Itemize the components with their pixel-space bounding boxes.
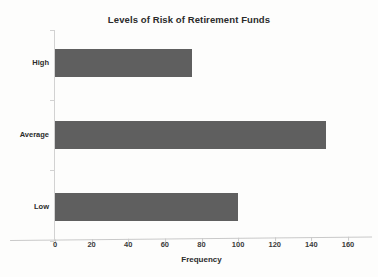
y-tick-label-high: High [32,58,49,67]
x-axis-title: Frequency [55,255,348,264]
x-tick-label-20: 20 [77,240,107,249]
chart-title: Levels of Risk of Retirement Funds [0,14,378,25]
x-tick-label-100: 100 [223,240,253,249]
x-tick-label-160: 160 [333,240,363,249]
x-tick-label-80: 80 [187,240,217,249]
y-axis-tick [50,30,54,31]
bar-low [55,193,238,221]
y-axis-tick [50,170,54,171]
y-axis-tick [50,100,54,101]
x-tick-label-0: 0 [40,240,70,249]
bar-chart: Levels of Risk of Retirement Funds HighA… [0,0,378,277]
y-tick-label-low: Low [34,202,49,211]
scanned-page: Levels of Risk of Retirement Funds HighA… [0,0,378,277]
bar-average [55,121,326,149]
x-tick-label-60: 60 [150,240,180,249]
bar-high [55,49,192,77]
plot-area [55,30,348,240]
x-tick-label-140: 140 [296,240,326,249]
y-tick-label-average: Average [20,130,49,139]
x-tick-label-40: 40 [113,240,143,249]
x-tick-label-120: 120 [260,240,290,249]
